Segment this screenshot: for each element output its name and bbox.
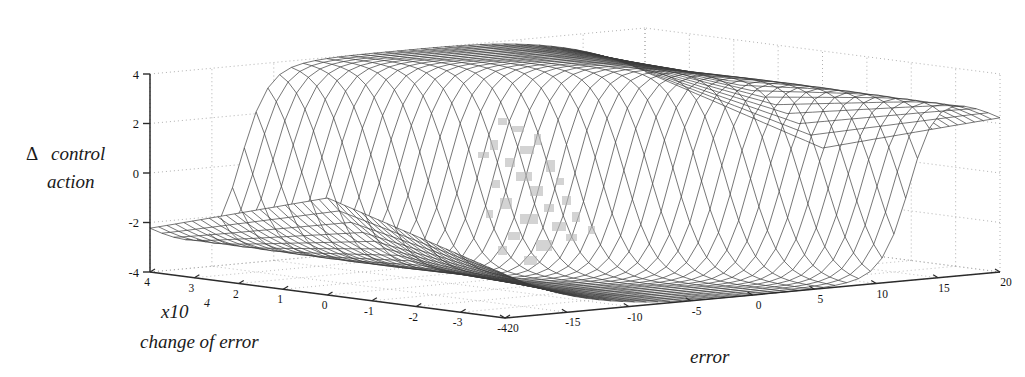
tick-label: -2 (129, 216, 139, 230)
tick-label: 4 (133, 68, 140, 82)
y-axis-label: change of error (140, 331, 259, 352)
tick-label: 1 (277, 293, 283, 305)
tick-label: -20 (503, 322, 519, 334)
tick-label: 3 (189, 282, 195, 294)
surface-plot-figure: 420-2-443210-1-2-3-4-20-15-10-505101520 … (0, 0, 1025, 377)
y-axis-scale-exponent: 4 (204, 296, 210, 310)
tick-label: 5 (818, 293, 824, 305)
tick-label: 2 (133, 117, 139, 131)
tick-label: -15 (565, 316, 581, 328)
tick-label: 0 (756, 299, 762, 311)
x-axis-label: error (690, 346, 730, 367)
tick-label: 20 (1000, 276, 1012, 288)
z-axis-label-action: action (47, 171, 95, 192)
tick-label: -3 (453, 316, 463, 328)
tick-label: -5 (692, 305, 702, 317)
surface-mesh (150, 44, 1000, 302)
tick-label: -2 (409, 311, 419, 323)
tick-label: 15 (938, 282, 950, 294)
tick-label: -10 (627, 311, 643, 323)
tick-label: 0 (133, 167, 139, 181)
tick-label: 4 (144, 276, 150, 288)
tick-label: 0 (322, 299, 328, 311)
tick-label: 2 (233, 288, 239, 300)
tick-label: 10 (877, 288, 889, 300)
tick-label: -4 (129, 266, 140, 280)
z-axis-label-delta: Δ (26, 143, 38, 164)
z-axis-label-control: control (51, 143, 105, 164)
y-axis-scale-base: x10 (160, 301, 189, 322)
tick-label: -1 (364, 305, 374, 317)
